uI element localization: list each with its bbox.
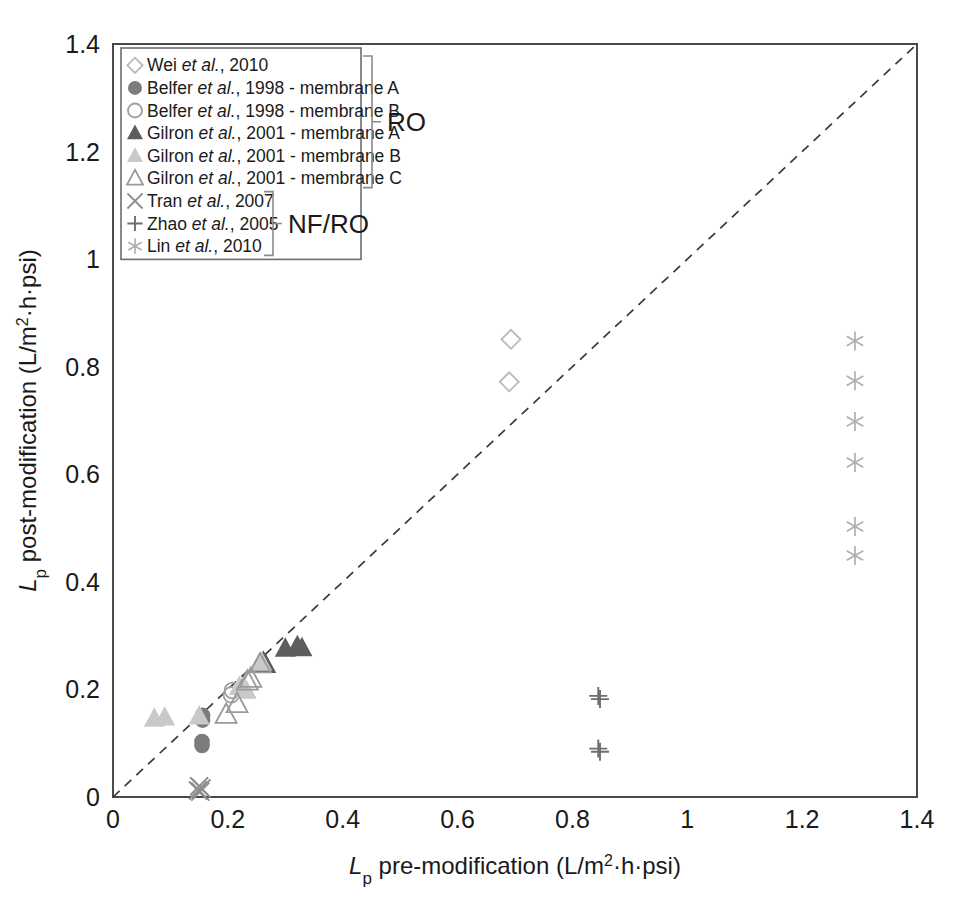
group-label-0: RO <box>387 107 426 137</box>
data-point <box>500 372 519 391</box>
axis-title-tail: ·h·psi) <box>613 852 681 879</box>
x-tick-label: 0 <box>106 805 120 833</box>
plus-marker <box>127 216 142 231</box>
scatter-figure: 00.20.40.60.811.21.400.20.40.60.811.21.4… <box>0 0 976 898</box>
asterisk-marker <box>128 239 141 254</box>
legend-marker-7 <box>127 216 142 231</box>
legend-etal: et al. <box>187 191 225 211</box>
legend-author: Gilron <box>147 168 199 188</box>
axis-title-tail: ·h·psi) <box>14 249 41 317</box>
legend-label-7: Zhao et al., 2005 <box>147 214 278 234</box>
legend-label-2: Belfer et al., 1998 - membrane B <box>147 101 400 121</box>
axis-title-superscript: 2 <box>14 317 31 326</box>
legend-rest: , 2001 - membrane A <box>237 123 401 143</box>
legend-marker-5 <box>127 170 143 185</box>
x-tick-label: 1.4 <box>900 805 935 833</box>
data-point <box>847 546 864 565</box>
x-axis-title: Lp pre-modification (L/m2·h·psi) <box>349 852 681 888</box>
legend-marker-1 <box>128 81 142 95</box>
x-tick-label: 1 <box>680 805 694 833</box>
axis-title-subscript: p <box>31 569 50 578</box>
data-point <box>591 743 609 761</box>
series-0 <box>500 330 521 391</box>
data-point <box>847 371 864 390</box>
y-tick-label: 0.4 <box>65 568 100 596</box>
legend-label-5: Gilron et al., 2001 - membrane C <box>147 168 402 188</box>
legend-rest: , 2001 - membrane B <box>237 146 401 166</box>
legend-label-6: Tran et al., 2007 <box>147 191 274 211</box>
asterisk-marker <box>847 412 864 431</box>
legend-marker-3 <box>127 125 143 140</box>
x-tick-label: 0.6 <box>440 805 475 833</box>
legend-author: Belfer <box>147 101 198 121</box>
circle-filled-marker <box>194 738 210 754</box>
diamond-open-marker <box>500 372 519 391</box>
legend-etal: et al. <box>199 146 237 166</box>
legend-marker-2 <box>128 104 142 118</box>
triangle-filled-marker <box>127 125 143 140</box>
data-point <box>847 331 864 350</box>
legend-author: Belfer <box>147 78 198 98</box>
y-tick-label: 0.6 <box>65 460 100 488</box>
legend-label-0: Wei et al., 2010 <box>147 55 269 75</box>
legend-etal: et al. <box>192 214 230 234</box>
circle-open-marker <box>128 104 142 118</box>
triangle-open-marker <box>127 170 143 185</box>
legend-group: Wei et al., 2010Belfer et al., 1998 - me… <box>121 48 426 259</box>
data-point <box>847 517 864 536</box>
plus-marker <box>589 687 607 705</box>
legend-etal: et al. <box>175 236 213 256</box>
legend-rest: , 2010 <box>213 236 262 256</box>
data-point <box>216 704 237 723</box>
x-tick-label: 1.2 <box>785 805 820 833</box>
legend-author: Gilron <box>147 123 199 143</box>
legend-author: Zhao <box>147 214 192 234</box>
legend-etal: et al. <box>198 101 236 121</box>
data-point <box>847 453 864 472</box>
plus-marker <box>591 690 609 708</box>
data-points-group <box>144 330 863 801</box>
legend-label-1: Belfer et al., 1998 - membrane A <box>147 78 399 98</box>
series-8 <box>847 331 864 565</box>
legend-marker-8 <box>128 239 141 254</box>
legend-etal: et al. <box>198 78 236 98</box>
legend-rest: , 1998 - membrane A <box>236 78 400 98</box>
data-point <box>589 740 607 758</box>
diamond-open-marker <box>127 58 142 73</box>
plus-marker <box>591 743 609 761</box>
asterisk-marker <box>847 453 864 472</box>
axis-title-symbol: L <box>349 852 362 879</box>
axis-title-subscript: p <box>362 869 371 888</box>
legend-marker-6 <box>127 193 142 208</box>
axis-title-text: pre-modification (L/m <box>372 852 604 879</box>
y-tick-label: 0 <box>86 783 100 811</box>
legend-label-4: Gilron et al., 2001 - membrane B <box>147 146 401 166</box>
y-tick-label: 1 <box>86 245 100 273</box>
y-tick-label: 1.4 <box>65 30 100 58</box>
data-point <box>501 330 520 349</box>
plot-canvas: 00.20.40.60.811.21.400.20.40.60.811.21.4… <box>0 0 976 898</box>
legend-etal: et al. <box>182 55 220 75</box>
legend-author: Lin <box>147 236 175 256</box>
data-point <box>194 738 210 754</box>
legend-etal: et al. <box>199 123 237 143</box>
plus-marker <box>589 740 607 758</box>
data-point <box>591 690 609 708</box>
legend-rest: , 2010 <box>220 55 269 75</box>
x-tick-label: 0.8 <box>555 805 590 833</box>
legend-author: Wei <box>147 55 182 75</box>
axis-title-symbol: L <box>14 578 41 591</box>
y-tick-label: 0.8 <box>65 353 100 381</box>
legend-rest: , 2001 - membrane C <box>237 168 402 188</box>
legend-marker-0 <box>127 58 142 73</box>
group-label-1: NF/RO <box>288 209 369 239</box>
series-7 <box>589 687 609 761</box>
x-tick-label: 0.4 <box>325 805 360 833</box>
x-tick-label: 0.2 <box>210 805 245 833</box>
axis-title-superscript: 2 <box>604 852 613 869</box>
asterisk-marker <box>847 517 864 536</box>
legend-rest: , 2005 <box>230 214 279 234</box>
y-axis-title: Lp post-modification (L/m2·h·psi) <box>14 249 50 592</box>
diamond-open-marker <box>501 330 520 349</box>
y-tick-label: 0.2 <box>65 675 100 703</box>
